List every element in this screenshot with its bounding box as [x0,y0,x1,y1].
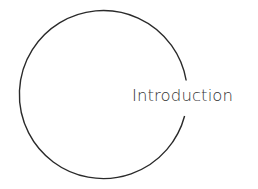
introduction-label: Introduction [132,86,233,106]
